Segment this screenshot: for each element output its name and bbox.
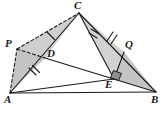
- vertex-label-P: P: [5, 38, 12, 49]
- vertex-label-B: B: [151, 94, 158, 105]
- segment-A-B: [10, 92, 156, 93]
- vertex-label-C: C: [74, 0, 81, 11]
- geometry-canvas: [0, 0, 165, 113]
- geometry-figure: A B C P D Q E: [0, 0, 165, 113]
- vertex-label-D: D: [47, 48, 55, 59]
- shaded-regions-group: [10, 13, 156, 93]
- vertex-label-Q: Q: [125, 39, 133, 50]
- vertex-label-A: A: [4, 94, 11, 105]
- segment-A-E: [10, 79, 114, 93]
- vertex-label-E: E: [105, 79, 112, 90]
